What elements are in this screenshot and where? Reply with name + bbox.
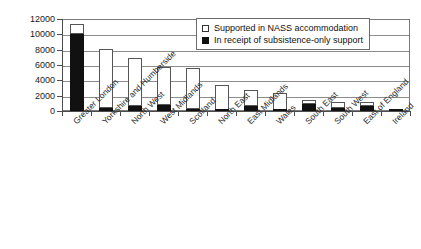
y-axis-label-0: 0	[3, 107, 55, 116]
bar-greater-london[interactable]	[70, 24, 84, 111]
legend-swatch-open-icon	[202, 25, 209, 32]
bar-chart: 12000 10000 8000 6000 4000 2000 0 Greate…	[0, 0, 421, 249]
bar-segment-open	[70, 24, 84, 34]
y-axis-label-6000: 6000	[3, 61, 55, 70]
chart-legend: Supported in NASS accommodation In recei…	[196, 18, 370, 50]
y-axis-label-4000: 4000	[3, 76, 55, 85]
y-axis-label-12000: 12000	[3, 15, 55, 24]
legend-swatch-solid-icon	[202, 37, 209, 44]
legend-item-in-receipt-of-subsistence-only-support[interactable]: In receipt of subsistence-only support	[202, 34, 363, 46]
legend-item-supported-in-nass-accommodation[interactable]: Supported in NASS accommodation	[202, 22, 363, 34]
bar-segment-solid	[70, 34, 84, 111]
y-axis-label-2000: 2000	[3, 92, 55, 101]
y-axis-label-8000: 8000	[3, 46, 55, 55]
legend-label-1: In receipt of subsistence-only support	[214, 35, 363, 46]
x-tick-0	[62, 111, 63, 116]
legend-label-0: Supported in NASS accommodation	[214, 23, 358, 34]
y-axis-label-10000: 10000	[3, 30, 55, 39]
